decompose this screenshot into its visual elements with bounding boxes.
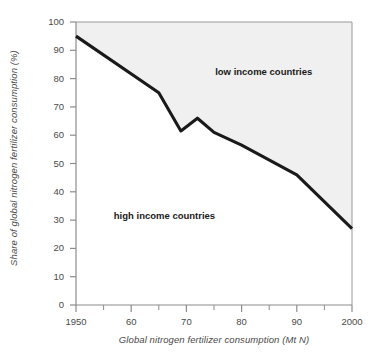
area-low-income-countries bbox=[76, 22, 352, 229]
x-tick-label: 70 bbox=[166, 316, 206, 327]
y-tick-label: 50 bbox=[30, 158, 64, 169]
y-tick-label: 40 bbox=[30, 186, 64, 197]
y-tick-label: 30 bbox=[30, 214, 64, 225]
y-tick-label: 80 bbox=[30, 73, 64, 84]
y-axis-label: Share of global nitrogen fertilizer cons… bbox=[8, 8, 19, 308]
y-tick-label: 90 bbox=[30, 44, 64, 55]
x-tick-label: 2000 bbox=[332, 316, 372, 327]
x-axis-minor-ticks bbox=[104, 305, 325, 310]
y-tick-label: 10 bbox=[30, 271, 64, 282]
x-tick-label: 80 bbox=[222, 316, 262, 327]
annotation-high-income-countries: high income countries bbox=[114, 210, 215, 221]
y-tick-label: 20 bbox=[30, 242, 64, 253]
x-axis-label: Global nitrogen fertilizer consumption (… bbox=[76, 334, 352, 345]
annotation-low-income-countries: low income countries bbox=[215, 66, 312, 77]
y-axis-ticks bbox=[70, 22, 76, 305]
x-tick-label: 1950 bbox=[56, 316, 96, 327]
y-tick-label: 0 bbox=[30, 299, 64, 310]
x-tick-label: 60 bbox=[111, 316, 151, 327]
y-axis-label-wrap: Share of global nitrogen fertilizer cons… bbox=[8, 8, 22, 308]
y-tick-label: 100 bbox=[30, 16, 64, 27]
chart-figure: Share of global nitrogen fertilizer cons… bbox=[0, 0, 380, 360]
x-tick-label: 90 bbox=[277, 316, 317, 327]
y-tick-label: 70 bbox=[30, 101, 64, 112]
y-tick-label: 60 bbox=[30, 129, 64, 140]
